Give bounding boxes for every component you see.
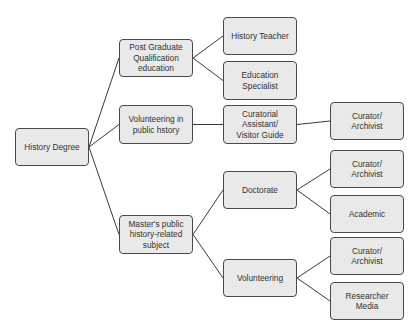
edge-doc-acad <box>297 190 330 214</box>
edge-pg-ht <box>193 36 223 58</box>
edge-doc-cur2 <box>297 169 330 190</box>
node-cur3: Curator/ Archivist <box>330 237 404 275</box>
node-res: Researcher Media <box>330 282 404 320</box>
edge-ca-cur1 <box>297 121 330 125</box>
node-cur1: Curator/ Archivist <box>330 102 404 140</box>
edge-vol-cur3 <box>297 256 330 278</box>
node-vol: Volunteering <box>223 259 297 297</box>
node-vph: Volunteering in public hstory <box>119 105 193 144</box>
edge-ms-doc <box>193 190 223 235</box>
node-pg: Post Graduate Qualification education <box>119 39 193 77</box>
edge-root-ms <box>89 147 119 235</box>
edge-pg-es <box>193 58 223 81</box>
node-doc: Doctorate <box>223 171 297 209</box>
node-root: History Degree <box>15 128 89 166</box>
node-ms: Master's public history-related subject <box>119 215 193 254</box>
edge-ms-vol <box>193 235 223 279</box>
node-es: Education Specialist <box>223 61 297 100</box>
edge-root-vph <box>89 125 119 148</box>
edge-vol-res <box>297 278 330 301</box>
node-cur2: Curator/ Archivist <box>330 150 404 188</box>
node-ht: History Teacher <box>223 17 297 55</box>
edge-root-pg <box>89 58 119 147</box>
node-acad: Academic <box>330 195 404 233</box>
node-ca: Curatorial Assistant/ Visitor Guide <box>223 105 297 144</box>
